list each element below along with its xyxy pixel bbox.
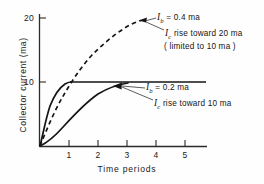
annotation-ic-rise-10ma-text: rise toward 10 ma (160, 99, 231, 108)
chart-figure: 20 10 1 2 3 4 5 Collector current (ma) T… (0, 0, 264, 184)
annotation-ib-0-4ma-text: = 0.4 ma (164, 13, 200, 22)
x-tick-label-5: 5 (182, 150, 187, 160)
annotation-ic-rise-20ma-text: rise toward 20 ma (171, 29, 242, 38)
x-tick-label-4: 4 (153, 150, 158, 160)
y-axis-label: Collector current (ma) (18, 25, 28, 145)
x-tick-label-3: 3 (124, 150, 129, 160)
annotation-ib-0-4ma: Ib = 0.4 ma (157, 12, 200, 24)
annotation-ib-0-2ma: Ib = 0.2 ma (146, 82, 189, 94)
annotation-ic-rise-20ma: Ic rise toward 20 ma (165, 28, 242, 40)
leader-ib-0-2ma (122, 86, 145, 88)
y-tick-label-20: 20 (16, 13, 34, 23)
x-axis-label: Time periods (77, 164, 177, 174)
annotation-limited-10ma: ( limited to 10 ma ) (164, 42, 236, 51)
arrow-ib-0-2ma (113, 83, 122, 90)
x-tick-label-2: 2 (95, 150, 100, 160)
annotation-ib-0-2ma-text: = 0.2 ma (153, 83, 189, 92)
annotation-ic-rise-10ma: Ic rise toward 10 ma (154, 98, 231, 110)
x-tick-label-1: 1 (66, 150, 71, 160)
